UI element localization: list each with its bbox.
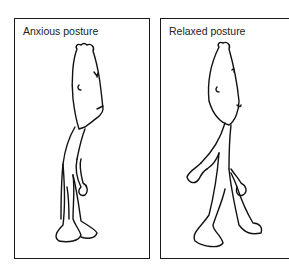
panel-relaxed-posture: Relaxed posture (160, 18, 289, 259)
anxious-figure-drawing (15, 19, 151, 260)
panel-anxious-posture: Anxious posture (14, 18, 150, 259)
relaxed-figure-drawing (161, 19, 289, 260)
